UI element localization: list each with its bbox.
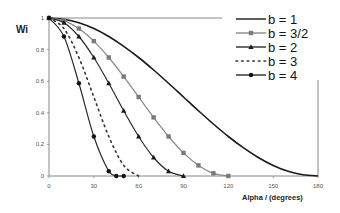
- series-b-2: [46, 15, 186, 178]
- legend-item: b = 3/2: [236, 26, 308, 41]
- data-marker: [181, 151, 185, 155]
- chart: 030609012015018000.20.40.60.81 Wi Alpha …: [0, 0, 340, 213]
- data-marker: [122, 174, 126, 178]
- data-marker: [122, 74, 126, 78]
- data-marker: [114, 174, 118, 178]
- series-line: [49, 18, 124, 176]
- data-marker: [107, 55, 111, 59]
- data-marker: [62, 34, 66, 38]
- legend-label: b = 3: [268, 54, 297, 69]
- x-tick-label: 180: [313, 183, 324, 189]
- data-marker: [211, 171, 215, 175]
- legend-item: b = 3: [236, 54, 297, 69]
- y-tick-label: 0.6: [36, 78, 45, 84]
- data-marker: [107, 169, 111, 173]
- data-marker: [151, 115, 155, 119]
- chart-canvas: 030609012015018000.20.40.60.81 Wi Alpha …: [0, 0, 340, 213]
- x-tick-label: 120: [223, 183, 234, 189]
- x-tick-label: 90: [180, 183, 187, 189]
- x-tick-label: 150: [268, 183, 279, 189]
- x-tick-label: 60: [135, 183, 142, 189]
- x-tick-label: 0: [47, 183, 51, 189]
- y-tick-label: 0.8: [36, 47, 45, 53]
- y-tick-label: 0: [41, 173, 45, 179]
- data-marker: [92, 39, 96, 43]
- legend-marker: [249, 31, 253, 35]
- legend-label: b = 1: [268, 12, 297, 27]
- data-marker: [77, 26, 81, 30]
- legend-marker: [249, 73, 253, 77]
- y-tick-label: 1: [41, 15, 45, 21]
- y-tick-label: 0.2: [36, 141, 45, 147]
- legend-item: b = 2: [236, 40, 297, 55]
- legend-label: b = 2: [268, 40, 297, 55]
- series-b-3-2: [47, 16, 231, 178]
- data-marker: [77, 81, 81, 85]
- data-marker: [166, 134, 170, 138]
- x-tick-label: 30: [90, 183, 97, 189]
- data-marker: [226, 174, 230, 178]
- data-marker: [196, 163, 200, 167]
- legend-label: b = 3/2: [268, 26, 308, 41]
- y-axis-label: Wi: [16, 24, 28, 35]
- data-marker: [166, 168, 171, 173]
- y-tick-label: 0.4: [36, 110, 45, 116]
- data-marker: [47, 16, 51, 20]
- legend-item: b = 1: [236, 12, 297, 27]
- data-marker: [136, 95, 140, 99]
- legend: b = 1b = 3/2b = 2b = 3b = 4: [236, 12, 308, 83]
- data-marker: [92, 134, 96, 138]
- legend-item: b = 4: [236, 68, 297, 83]
- x-axis-label: Alpha / (degrees): [242, 193, 303, 202]
- legend-label: b = 4: [268, 68, 297, 83]
